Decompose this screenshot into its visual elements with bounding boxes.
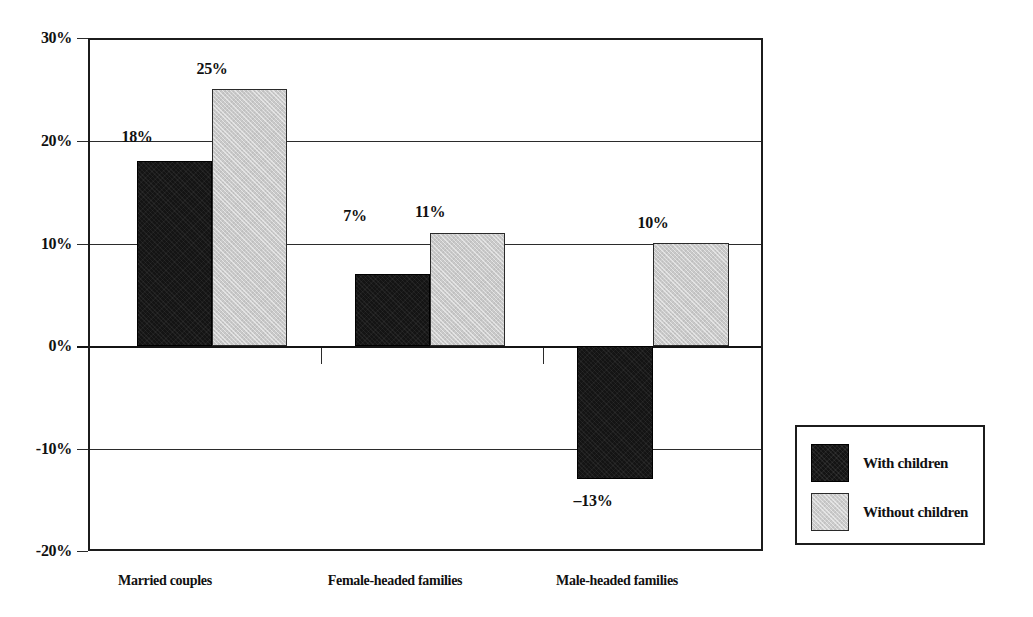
bar-married-without-children <box>212 89 287 346</box>
bar-chart-figure: 30% 20% 10% 0% -10% -20% <box>0 0 1033 617</box>
plot-area <box>88 38 763 551</box>
bar-male-headed-with-children <box>577 346 653 479</box>
y-tick-mark-20 <box>77 141 88 142</box>
x-separator-tick-1 <box>321 348 322 364</box>
x-category-label-female-headed-families: Female-headed families <box>295 573 495 589</box>
y-tick-label-neg10: -10% <box>36 440 72 458</box>
y-tick-label-neg20: -20% <box>36 542 72 560</box>
value-label-married-with-children: 18% <box>110 128 164 146</box>
gridline-20 <box>90 141 761 142</box>
legend-label-without-children: Without children <box>863 504 968 521</box>
y-tick-label-10: 10% <box>41 235 72 253</box>
bar-female-headed-without-children <box>430 233 505 346</box>
y-tick-mark-10 <box>77 244 88 245</box>
value-label-male-headed-without-children: 10% <box>626 214 680 232</box>
legend-swatch-with-children <box>811 444 849 482</box>
value-label-female-headed-with-children: 7% <box>328 207 382 225</box>
bar-married-with-children <box>137 161 212 346</box>
bar-female-headed-with-children <box>355 274 430 346</box>
x-category-label-male-headed-families: Male-headed families <box>522 573 712 589</box>
y-axis-labels: 30% 20% 10% 0% -10% -20% <box>0 0 72 617</box>
legend-swatch-without-children <box>811 493 849 531</box>
y-tick-label-0: 0% <box>49 337 72 355</box>
y-tick-label-30: 30% <box>41 29 72 47</box>
legend-item-without-children: Without children <box>811 493 968 531</box>
value-label-male-headed-with-children: –13% <box>558 492 628 510</box>
bar-male-headed-without-children <box>653 243 729 346</box>
y-tick-label-20: 20% <box>41 132 72 150</box>
legend-label-with-children: With children <box>863 455 948 472</box>
x-category-label-married-couples: Married couples <box>85 573 245 589</box>
y-tick-mark-neg10 <box>77 449 88 450</box>
gridline-zero <box>90 346 761 348</box>
gridline-neg10 <box>90 449 761 450</box>
y-tick-mark-30 <box>77 38 88 39</box>
y-tick-mark-0 <box>77 346 88 348</box>
legend: With children Without children <box>795 425 985 545</box>
legend-item-with-children: With children <box>811 444 948 482</box>
x-separator-tick-2 <box>543 348 544 364</box>
value-label-female-headed-without-children: 11% <box>403 203 457 221</box>
y-tick-mark-neg20 <box>77 551 88 552</box>
value-label-married-without-children: 25% <box>185 60 239 78</box>
